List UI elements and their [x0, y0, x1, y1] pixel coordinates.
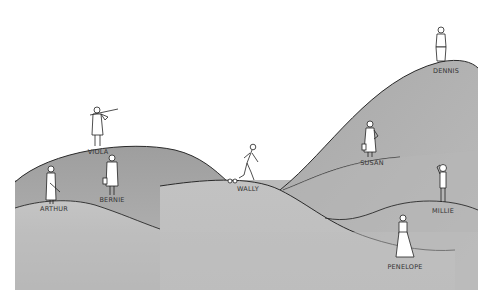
label-penelope: PENELOPE [387, 263, 422, 271]
label-arthur: ARTHUR [40, 205, 68, 213]
hills-scene [0, 0, 490, 303]
label-bernie: BERNIE [99, 196, 124, 204]
label-dennis: DENNIS [433, 67, 459, 75]
figure-viola [90, 107, 118, 146]
label-wally: WALLY [237, 185, 259, 193]
label-viola: VIOLA [88, 148, 109, 156]
label-millie: MILLIE [432, 207, 454, 215]
figure-dennis [436, 27, 446, 61]
figure-wally [228, 144, 258, 183]
label-susan: SUSAN [360, 159, 383, 167]
